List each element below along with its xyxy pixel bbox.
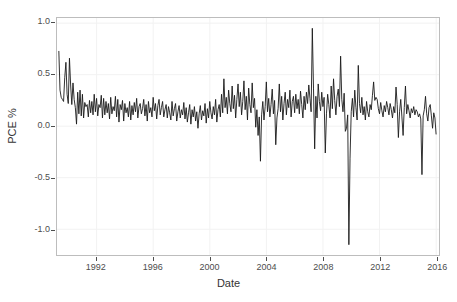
y-tick-label: 0.5 xyxy=(20,69,50,78)
y-axis-title: PCE % xyxy=(6,86,18,166)
x-axis-title: Date xyxy=(0,277,457,289)
x-tick-mark xyxy=(96,257,97,261)
y-tick-label: -0.5 xyxy=(20,173,50,182)
x-tick-label: 2016 xyxy=(417,262,457,272)
y-tick-label: -1.0 xyxy=(20,225,50,234)
y-tick-mark xyxy=(51,126,55,127)
y-tick-label: 0.0 xyxy=(20,121,50,130)
x-tick-mark xyxy=(380,257,381,261)
plot-svg xyxy=(57,18,439,255)
x-tick-label: 1992 xyxy=(76,262,116,272)
x-tick-label: 2000 xyxy=(190,262,230,272)
y-tick-label: 1.0 xyxy=(20,17,50,26)
grid-lines xyxy=(57,18,439,255)
x-tick-label: 2012 xyxy=(360,262,400,272)
pce-time-series-chart: -1.0-0.50.00.51.0 1992199620002004200820… xyxy=(0,0,457,302)
y-tick-mark xyxy=(51,74,55,75)
y-tick-mark xyxy=(51,22,55,23)
x-tick-mark xyxy=(323,257,324,261)
x-tick-mark xyxy=(210,257,211,261)
x-axis-tick-labels: 1992199620002004200820122016 xyxy=(0,262,457,276)
x-tick-label: 2008 xyxy=(303,262,343,272)
y-tick-mark xyxy=(51,230,55,231)
x-tick-label: 2004 xyxy=(246,262,286,272)
x-tick-label: 1996 xyxy=(133,262,173,272)
x-tick-mark xyxy=(153,257,154,261)
y-tick-mark xyxy=(51,178,55,179)
y-axis-tick-labels: -1.0-0.50.00.51.0 xyxy=(18,0,50,302)
x-tick-mark xyxy=(437,257,438,261)
plot-panel xyxy=(56,17,440,256)
x-tick-mark xyxy=(266,257,267,261)
